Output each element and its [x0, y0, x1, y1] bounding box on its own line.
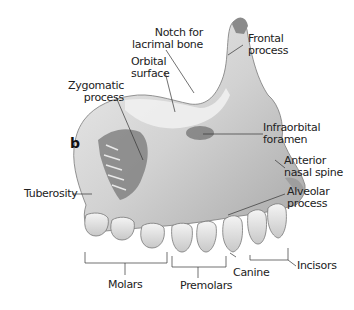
label-tuberosity: Tuberosity [24, 188, 77, 200]
label-molars: Molars [108, 279, 142, 291]
label-line: nasal spine [284, 167, 343, 179]
panel-letter: b [70, 135, 80, 151]
label-frontal-process: Frontal process [248, 33, 288, 57]
label-orbital-surface: Orbital surface [131, 56, 170, 80]
label-notch-lacrimal: Notch for lacrimal bone [132, 27, 203, 51]
label-infraorbital-foramen: Infraorbital foramen [263, 122, 320, 146]
label-line: process [248, 45, 288, 57]
label-incisors: Incisors [297, 260, 337, 272]
label-line: surface [131, 68, 170, 80]
label-anterior-nasal-spine: Anterior nasal spine [284, 155, 343, 179]
label-premolars: Premolars [180, 280, 232, 292]
label-canine: Canine [233, 267, 269, 279]
label-line: lacrimal bone [132, 39, 203, 51]
label-line: foramen [263, 134, 320, 146]
label-zygomatic-process: Zygomatic process [68, 80, 124, 104]
label-alveolar-process: Alveolar process [287, 186, 330, 210]
label-line: process [287, 198, 330, 210]
label-line: process [68, 92, 124, 104]
